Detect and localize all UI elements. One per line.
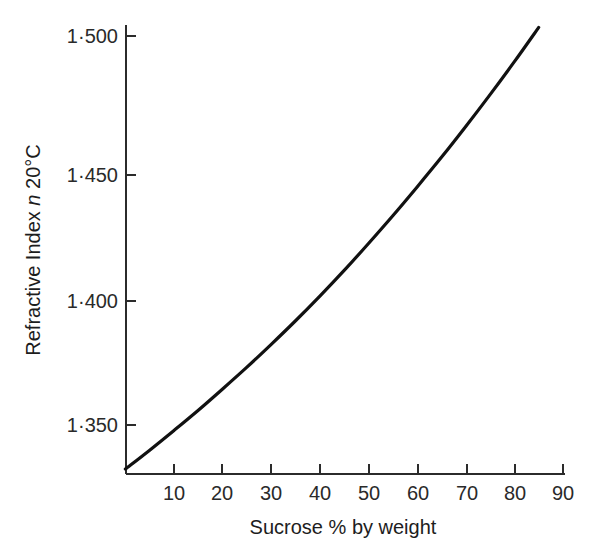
x-axis-title: Sucrose % by weight <box>250 516 437 538</box>
y-tick-marks <box>126 36 136 425</box>
x-tick-label-40: 40 <box>309 482 331 504</box>
y-axis-title: Refractive Index n 20°C <box>22 144 44 355</box>
x-tick-labels: 10 20 30 40 50 60 70 80 90 <box>163 482 574 504</box>
y-tick-label-1500: 1·500 <box>67 25 118 47</box>
x-tick-label-80: 80 <box>504 482 526 504</box>
chart-canvas: 1·500 1·450 1·400 1·350 10 20 30 40 50 6… <box>0 0 594 556</box>
x-tick-label-70: 70 <box>456 482 478 504</box>
y-axis-title-symbol: n <box>22 195 44 206</box>
y-axis-title-trail: 20°C <box>22 144 44 194</box>
x-tick-label-60: 60 <box>407 482 429 504</box>
x-tick-label-90: 90 <box>552 482 574 504</box>
refractive-index-curve <box>125 27 538 469</box>
x-tick-label-50: 50 <box>358 482 380 504</box>
y-tick-labels: 1·500 1·450 1·400 1·350 <box>67 25 118 436</box>
y-tick-label-1400: 1·400 <box>67 290 118 312</box>
y-axis-title-lead: Refractive Index <box>22 206 44 356</box>
x-tick-label-20: 20 <box>211 482 233 504</box>
y-tick-label-1350: 1·350 <box>67 414 118 436</box>
x-tick-marks <box>174 464 563 474</box>
refractive-index-chart: 1·500 1·450 1·400 1·350 10 20 30 40 50 6… <box>0 0 594 556</box>
x-tick-label-30: 30 <box>260 482 282 504</box>
x-tick-label-10: 10 <box>163 482 185 504</box>
y-tick-label-1450: 1·450 <box>67 164 118 186</box>
